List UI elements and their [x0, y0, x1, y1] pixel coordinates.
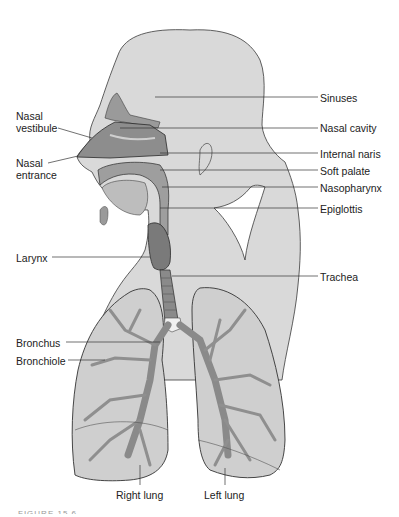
label-soft-palate: Soft palate — [320, 165, 370, 177]
label-sinuses: Sinuses — [320, 92, 357, 104]
label-nasal-entrance-line2: entrance — [16, 169, 57, 181]
label-larynx: Larynx — [16, 252, 48, 264]
label-nasal-cavity: Nasal cavity — [320, 122, 377, 134]
tongue — [102, 180, 148, 215]
label-internal-naris: Internal naris — [320, 148, 381, 160]
right-lung — [72, 289, 168, 481]
label-trachea: Trachea — [320, 271, 358, 283]
anatomy-illustration — [0, 0, 399, 517]
label-epiglottis: Epiglottis — [320, 203, 363, 215]
respiratory-diagram: Sinuses Nasal cavity Internal naris Soft… — [0, 0, 399, 517]
label-bronchiole: Bronchiole — [16, 355, 66, 367]
label-nasopharynx: Nasopharynx — [320, 182, 382, 194]
label-left-lung: Left lung — [204, 489, 244, 501]
label-nasal-entrance-line1: Nasal — [16, 157, 43, 169]
label-nasal-vestibule-line1: Nasal — [16, 110, 43, 122]
label-right-lung: Right lung — [116, 489, 163, 501]
label-nasal-vestibule-line2: vestibule — [16, 122, 57, 134]
label-bronchus: Bronchus — [16, 337, 60, 349]
